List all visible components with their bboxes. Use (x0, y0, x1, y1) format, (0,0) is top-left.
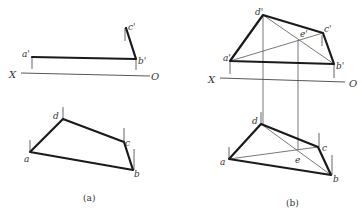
label-b-prime: b' (138, 56, 146, 66)
axis-x-label-b: X (207, 74, 216, 85)
diagonal-a-c (229, 147, 318, 159)
top-view-quad-a (30, 119, 133, 170)
front-view-edge-a (32, 28, 136, 59)
top-view-quad-b (229, 124, 331, 175)
axis-x-label-a: X (8, 69, 17, 80)
label-d-b: d (252, 116, 258, 126)
label-c-prime: c' (128, 22, 136, 32)
label-e-prime-b: e' (300, 29, 308, 39)
axis-line-a (21, 73, 150, 76)
caption-a: (a) (83, 193, 95, 203)
axis-o-label-a: O (151, 71, 159, 82)
label-b-b: b (333, 174, 339, 184)
label-d: d (53, 111, 59, 121)
diagonal-d-b-prime (263, 15, 334, 64)
label-c-b: c (322, 143, 327, 153)
label-b-prime-b: b' (336, 61, 344, 71)
label-a-prime-b: a' (223, 53, 231, 63)
caption-b: (b) (286, 198, 299, 208)
axis-o-label-b: O (349, 78, 357, 89)
panel-b: X O a' b' c' d' e' a d c b e (b) (207, 7, 357, 208)
panel-a: X O a' b' c' a d c b (a) (8, 22, 159, 203)
label-a-prime: a' (22, 49, 30, 59)
axis-line-b (220, 78, 345, 82)
label-c-prime-b: c' (324, 24, 332, 34)
label-b: b (134, 169, 140, 179)
diagonal-d-b (261, 124, 331, 175)
label-d-prime-b: d' (255, 7, 263, 17)
label-e-b: e (295, 155, 300, 165)
label-a: a (24, 154, 29, 164)
projection-diagram: X O a' b' c' a d c b (a) X O (0, 0, 362, 215)
label-c: c (125, 138, 130, 148)
label-a-b: a (220, 157, 225, 167)
